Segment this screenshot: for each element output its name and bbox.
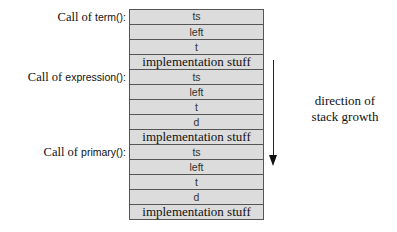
stack-growth-arrow-shaft xyxy=(273,60,274,158)
frame-label-0: Call of term(): xyxy=(58,10,126,24)
stack-cell-t: t xyxy=(130,99,263,114)
frame-label-prefix: Call of xyxy=(28,70,66,84)
stack-growth-label: direction of stack growth xyxy=(300,93,390,125)
frame-label-prefix: Call of xyxy=(44,145,82,159)
frame-function-name: expression(): xyxy=(65,71,126,83)
growth-label-line-1: direction of xyxy=(300,93,390,109)
stack-cell-left: left xyxy=(130,84,263,99)
arrow-down-icon xyxy=(269,155,277,166)
stack-cell-left: left xyxy=(130,24,263,39)
stack-cell-d: d xyxy=(130,189,263,204)
stack-cell-left: left xyxy=(130,159,263,174)
stack-cell-t: t xyxy=(130,39,263,54)
frame-label-2: Call of primary(): xyxy=(44,145,126,159)
stack-cell-d: d xyxy=(130,114,263,129)
growth-label-line-2: stack growth xyxy=(300,109,390,125)
call-stack: tslefttimplementation stufftslefttdimple… xyxy=(129,9,264,220)
stack-cell-ts: ts xyxy=(130,144,263,159)
frame-label-1: Call of expression(): xyxy=(28,70,126,84)
stack-cell-implementation: implementation stuff xyxy=(130,129,263,144)
frame-function-name: term(): xyxy=(95,11,126,23)
stack-cell-ts: ts xyxy=(130,10,263,24)
frame-label-prefix: Call of xyxy=(58,10,96,24)
frame-function-name: primary(): xyxy=(81,146,126,158)
stack-cell-t: t xyxy=(130,174,263,189)
stack-cell-implementation: implementation stuff xyxy=(130,204,263,219)
stack-cell-ts: ts xyxy=(130,69,263,84)
stack-cell-implementation: implementation stuff xyxy=(130,54,263,69)
